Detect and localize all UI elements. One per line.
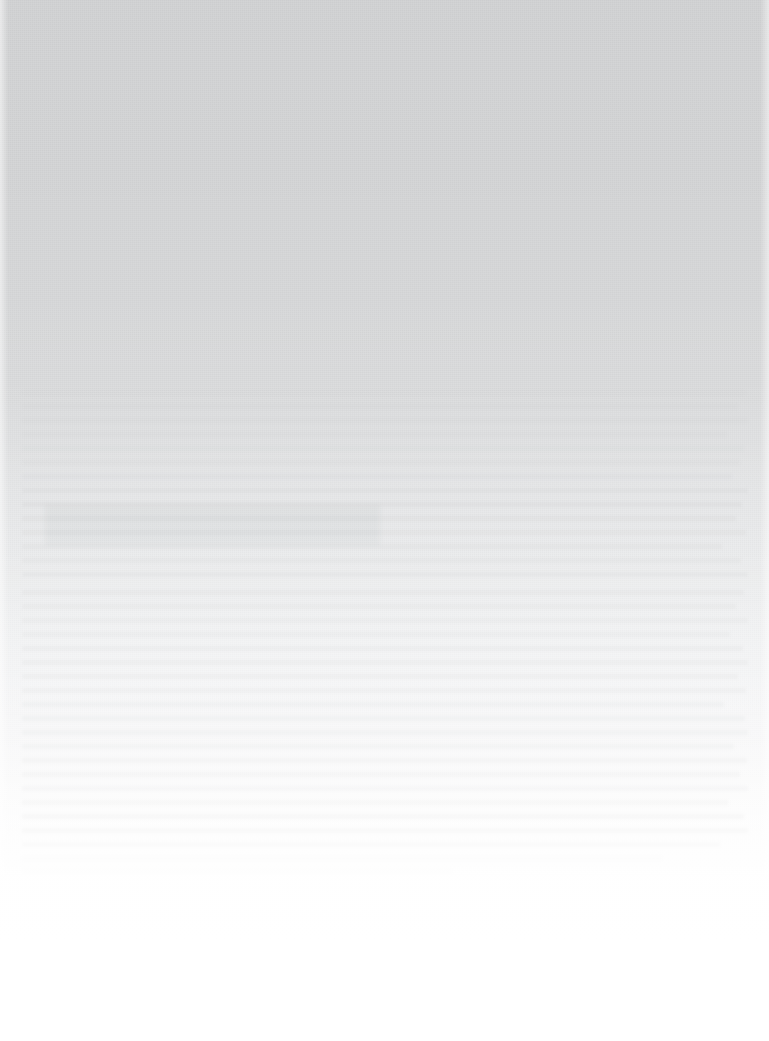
page-background-gradient	[0, 0, 769, 1041]
document-page	[0, 0, 769, 1041]
